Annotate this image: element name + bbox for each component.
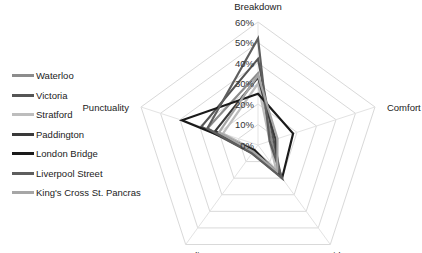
legend-label: Stratford [36, 109, 72, 120]
axis-label-breakdown: Breakdown [234, 1, 282, 12]
legend-item-waterloo: Waterloo [12, 66, 141, 86]
axis-label-overcrowding: Overcrowding [151, 250, 210, 253]
legend-line-icon [12, 133, 34, 136]
radar-grid [141, 22, 375, 245]
legend-label: Waterloo [36, 70, 74, 81]
legend-item-liverpool-street: Liverpool Street [12, 164, 141, 184]
legend-line-icon [12, 172, 34, 175]
legend-item-kings-cross: King's Cross St. Pancras [12, 183, 141, 203]
tick-label: 20% [235, 99, 255, 110]
axis-label-covid-19: Covid-19 [316, 250, 354, 253]
tick-label: 40% [235, 58, 255, 69]
legend-item-london-bridge: London Bridge [12, 144, 141, 164]
legend: Waterloo Victoria Stratford Paddington L… [12, 66, 141, 203]
radial-tick-labels: 0%10%20%30%40%50%60% [235, 17, 255, 151]
legend-label: Liverpool Street [36, 168, 103, 179]
legend-line-icon [12, 74, 34, 77]
legend-line-icon [12, 191, 34, 194]
legend-label: London Bridge [36, 148, 98, 159]
axis-label-comfort: Comfort [387, 102, 421, 113]
legend-line-icon [12, 113, 34, 116]
legend-item-victoria: Victoria [12, 86, 141, 106]
legend-label: Victoria [36, 90, 68, 101]
tick-label: 0% [240, 140, 254, 151]
tick-label: 60% [235, 17, 255, 28]
legend-item-stratford: Stratford [12, 105, 141, 125]
legend-line-icon [12, 152, 34, 155]
tick-label: 30% [235, 78, 255, 89]
tick-label: 10% [235, 119, 255, 130]
legend-line-icon [12, 94, 34, 97]
tick-label: 50% [235, 37, 255, 48]
legend-label: King's Cross St. Pancras [36, 187, 141, 198]
legend-item-paddington: Paddington [12, 125, 141, 145]
legend-label: Paddington [36, 129, 84, 140]
